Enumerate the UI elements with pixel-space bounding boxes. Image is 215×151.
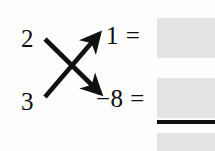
redaction-product-1 [157, 18, 215, 58]
redaction-sum-total [157, 133, 215, 151]
figure-canvas: 2 3 1 = −8 = [0, 0, 215, 151]
expression-bottom: −8 = [96, 86, 145, 111]
sum-rule [157, 120, 215, 124]
redaction-product-2 [157, 78, 215, 118]
expression-top: 1 = [106, 23, 140, 48]
